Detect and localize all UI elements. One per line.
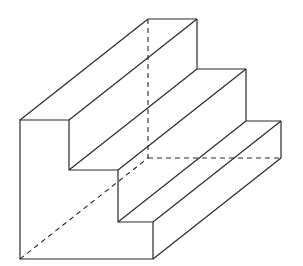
visible-edge (153, 158, 281, 259)
visible-edges (20, 19, 281, 259)
visible-edge (118, 121, 246, 222)
hidden-edge (20, 158, 148, 259)
visible-edge (153, 121, 281, 222)
visible-edge (69, 69, 197, 170)
visible-edge (69, 19, 197, 120)
front-face-outline (20, 120, 153, 259)
front-face (20, 120, 153, 259)
visible-edge (20, 19, 148, 120)
staircase-diagram (0, 0, 303, 266)
visible-edge (118, 69, 246, 170)
